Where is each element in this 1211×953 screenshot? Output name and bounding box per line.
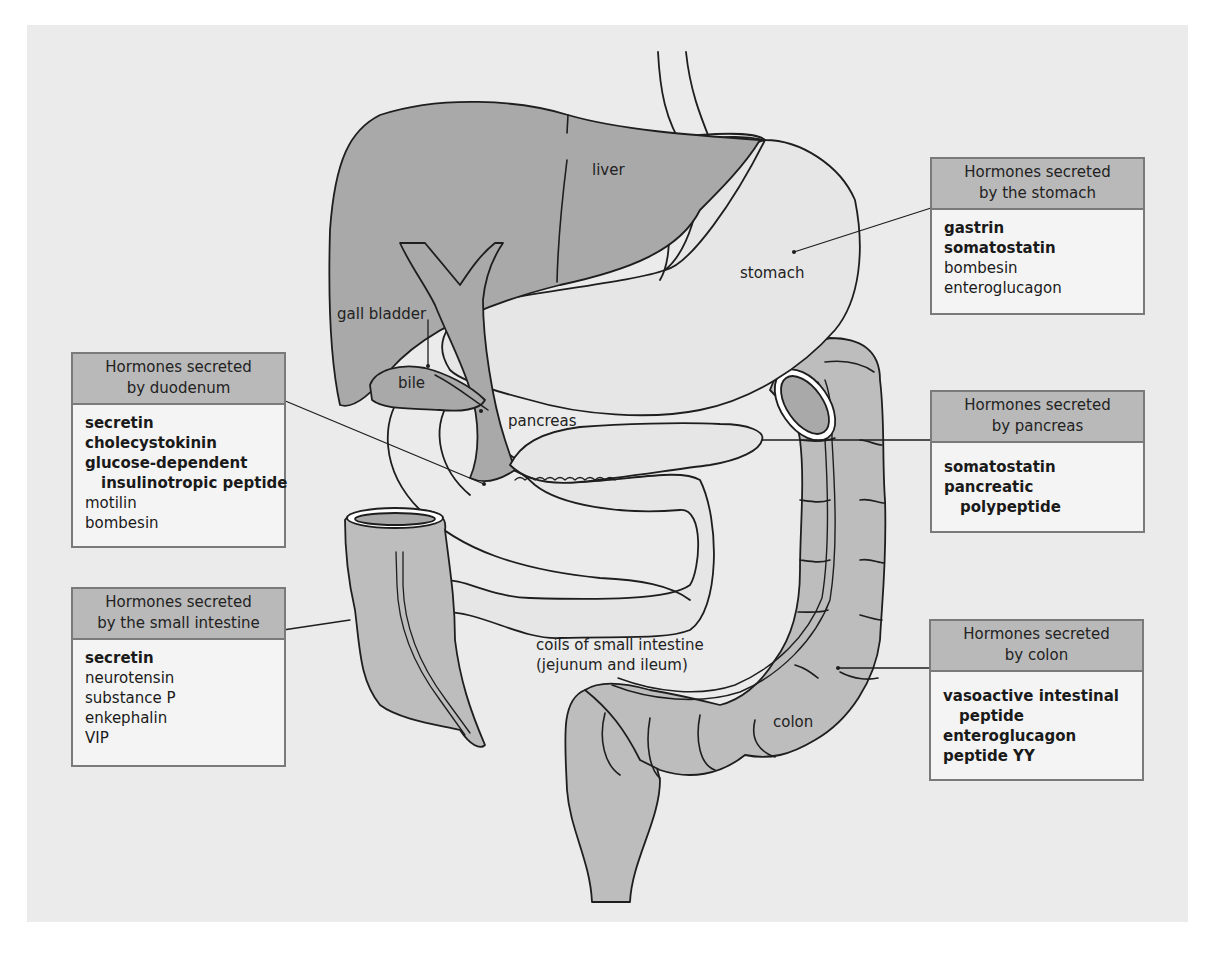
label-pancreas: pancreas <box>508 412 577 431</box>
hormone-item: pancreatic <box>944 477 1133 497</box>
hormone-item: VIP <box>85 728 274 748</box>
hormone-item: enteroglucagon <box>943 726 1132 746</box>
hormone-item: neurotensin <box>85 668 274 688</box>
pancreas-shape <box>510 423 762 483</box>
hormone-box-header: Hormones secreted by pancreas <box>932 392 1143 443</box>
header-line-2: by the small intestine <box>77 613 280 634</box>
hormone-box-header: Hormones secreted by colon <box>931 621 1142 672</box>
hormone-item: somatostatin <box>944 238 1133 258</box>
header-line-1: Hormones secreted <box>77 357 280 378</box>
hormone-box-pancreas: Hormones secreted by pancreas somatostat… <box>930 390 1145 533</box>
label-small-intestine-line2: (jejunum and ileum) <box>536 656 688 675</box>
hormone-box-header: Hormones secreted by the small intestine <box>73 589 284 640</box>
hormone-box-header: Hormones secreted by the stomach <box>932 159 1143 210</box>
hormone-item: bombesin <box>944 258 1133 278</box>
hormone-list: secretin neurotensin substance P enkepha… <box>73 640 284 754</box>
header-line-2: by duodenum <box>77 378 280 399</box>
hormone-box-small-intestine: Hormones secreted by the small intestine… <box>71 587 286 767</box>
header-line-2: by the stomach <box>936 183 1139 204</box>
header-line-1: Hormones secreted <box>77 592 280 613</box>
header-line-2: by pancreas <box>936 416 1139 437</box>
label-liver: liver <box>592 161 625 180</box>
hormone-item: cholecystokinin <box>85 433 274 453</box>
header-line-2: by colon <box>935 645 1138 666</box>
hormone-item: insulinotropic peptide <box>85 473 274 493</box>
hormone-item: glucose-dependent <box>85 453 274 473</box>
header-line-1: Hormones secreted <box>936 395 1139 416</box>
hormone-item: substance P <box>85 688 274 708</box>
hormone-item: enteroglucagon <box>944 278 1133 298</box>
header-line-1: Hormones secreted <box>936 162 1139 183</box>
label-gall-bladder: gall bladder <box>337 305 426 324</box>
label-stomach: stomach <box>740 264 804 283</box>
hormone-list: secretin cholecystokinin glucose-depende… <box>73 405 284 539</box>
label-small-intestine-line1: coils of small intestine <box>536 636 704 655</box>
label-bile: bile <box>398 374 425 393</box>
hormone-box-colon: Hormones secreted by colon vasoactive in… <box>929 619 1144 781</box>
hormone-item: gastrin <box>944 218 1133 238</box>
hormone-item: motilin <box>85 493 274 513</box>
hormone-item: polypeptide <box>944 497 1133 517</box>
hormone-item: somatostatin <box>944 457 1133 477</box>
hormone-box-header: Hormones secreted by duodenum <box>73 354 284 405</box>
hormone-item: secretin <box>85 648 274 668</box>
header-line-1: Hormones secreted <box>935 624 1138 645</box>
hormone-item: peptide YY <box>943 746 1132 766</box>
hormone-list: somatostatin pancreatic polypeptide <box>932 443 1143 523</box>
hormone-item: peptide <box>943 706 1132 726</box>
hormone-list: gastrin somatostatin bombesin enterogluc… <box>932 210 1143 304</box>
hormone-box-stomach: Hormones secreted by the stomach gastrin… <box>930 157 1145 315</box>
hormone-item: secretin <box>85 413 274 433</box>
hormone-box-duodenum: Hormones secreted by duodenum secretin c… <box>71 352 286 548</box>
caecum-shape <box>345 509 485 747</box>
hormone-item: vasoactive intestinal <box>943 686 1132 706</box>
hormone-item: bombesin <box>85 513 274 533</box>
label-colon: colon <box>773 713 813 732</box>
hormone-item: enkephalin <box>85 708 274 728</box>
hormone-list: vasoactive intestinal peptide enterogluc… <box>931 672 1142 772</box>
